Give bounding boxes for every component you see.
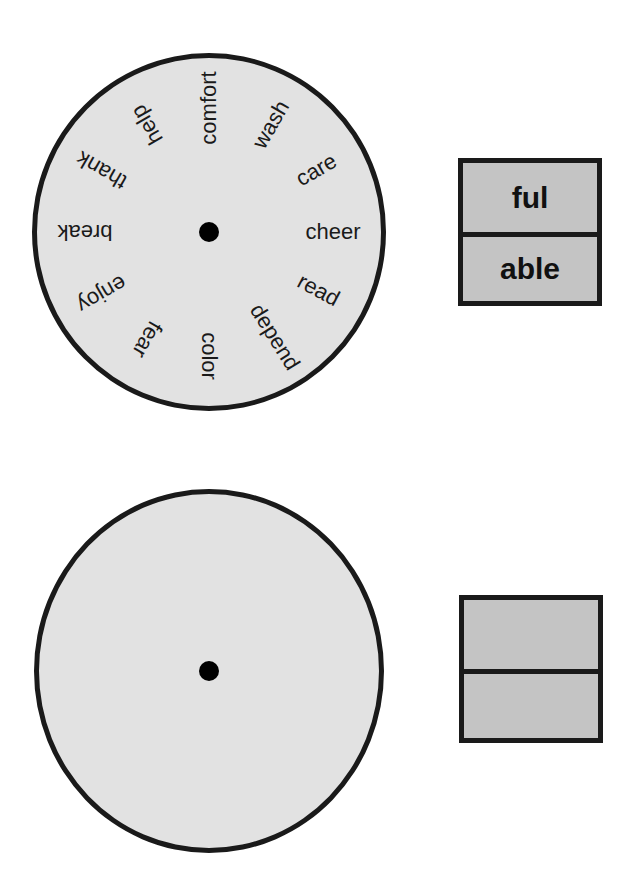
wheel-word-wash: wash	[249, 97, 294, 152]
wheel-word-thank: thank	[73, 147, 131, 193]
wheel-word-care: care	[292, 150, 340, 190]
wheel-word-depend: depend	[246, 300, 304, 374]
wheel-word-break: break	[57, 221, 112, 243]
wheel-word-color: color	[198, 332, 220, 380]
blank-wheel-bottom[interactable]	[34, 489, 384, 853]
suffix-box-top: ful able	[458, 158, 602, 306]
wheel-word-read: read	[294, 270, 343, 310]
wheel-word-help: help	[127, 101, 167, 148]
word-wheel-top[interactable]: comfortwashcarecheerreaddependcolorfeare…	[32, 53, 386, 411]
wheel-word-fear: fear	[128, 317, 166, 361]
wheel-word-cheer: cheer	[305, 221, 360, 243]
suffix-box-bottom	[459, 595, 603, 743]
wheel-center-hub	[199, 661, 219, 681]
suffix-cell-ful: ful	[463, 163, 597, 232]
suffix-cell-blank-top	[464, 600, 598, 669]
suffix-cell-able: able	[463, 232, 597, 301]
wheel-word-comfort: comfort	[198, 71, 220, 144]
wheel-center-hub	[199, 222, 219, 242]
suffix-cell-blank-bottom	[464, 669, 598, 738]
wheel-word-enjoy: enjoy	[73, 271, 130, 316]
